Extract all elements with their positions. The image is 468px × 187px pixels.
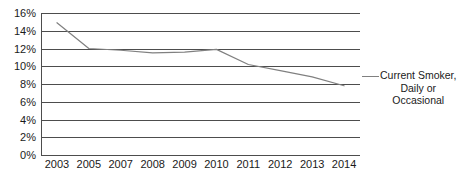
y-axis-tick-label: 4% [0,115,36,126]
y-axis-tick-label: 10% [0,61,36,72]
y-axis-tick-label: 8% [0,79,36,90]
x-axis-tick-label: 2012 [264,158,296,171]
legend-label-line-1: Current Smoker, [380,69,456,82]
legend-label-line-2: Daily or [380,82,456,95]
series-line-current-smoker [41,13,360,155]
x-axis-tick-label: 2009 [169,158,201,171]
grid-line [41,155,360,156]
y-axis-tick-label: 6% [0,97,36,108]
plot-area [41,13,360,155]
y-axis-tick-label: 16% [0,8,36,19]
y-axis-tick-label: 2% [0,132,36,143]
legend-item-current-smoker: Current Smoker, Daily or Occasional [362,69,468,107]
legend-label: Current Smoker, Daily or Occasional [379,69,456,107]
x-axis-tick-label: 2007 [105,158,137,171]
y-axis-tick-label: 0% [0,150,36,161]
line-chart: 16%14%12%10%8%6%4%2%0% 20032005200720082… [0,0,468,187]
x-axis-tick-label: 2003 [41,158,73,171]
y-axis: 16%14%12%10%8%6%4%2%0% [0,0,36,187]
x-axis-tick-label: 2013 [296,158,328,171]
legend-line-swatch-icon [362,72,379,81]
y-axis-tick-label: 12% [0,44,36,55]
y-axis-tick-label: 14% [0,26,36,37]
x-axis-tick-label: 2014 [328,158,360,171]
legend: Current Smoker, Daily or Occasional [362,69,468,107]
x-axis-tick-label: 2005 [73,158,105,171]
x-axis: 2003200520072008200920102011201220132014 [41,158,360,174]
x-axis-tick-label: 2010 [201,158,233,171]
x-axis-tick-label: 2011 [232,158,264,171]
x-axis-tick-label: 2008 [137,158,169,171]
legend-label-line-3: Occasional [380,94,456,107]
